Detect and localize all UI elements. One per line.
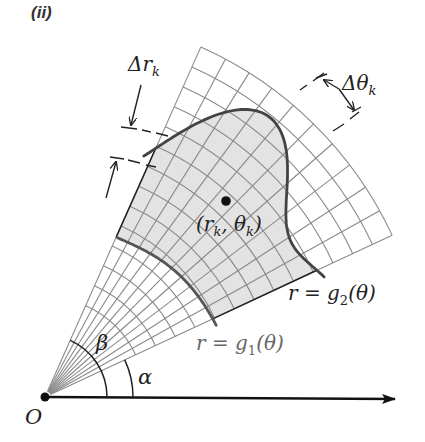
point-label-sub2: k bbox=[246, 224, 254, 239]
origin-label: O bbox=[25, 405, 42, 429]
g1-eq: = bbox=[212, 331, 229, 355]
g2-eq: = bbox=[304, 281, 321, 305]
g1-label: r = g1(θ) bbox=[196, 331, 284, 358]
point-label-mid: , θ bbox=[221, 212, 246, 236]
g2-sub: 2 bbox=[340, 293, 348, 308]
beta-label: β bbox=[96, 331, 108, 355]
g2-fn: g bbox=[327, 281, 340, 305]
g2-arg: (θ) bbox=[348, 281, 376, 305]
delta-theta-symbol: Δθ bbox=[342, 71, 368, 95]
polar-axis bbox=[45, 397, 395, 399]
g1-arg: (θ) bbox=[256, 331, 284, 355]
sample-point bbox=[221, 196, 231, 206]
delta-r-subscript: k bbox=[152, 64, 160, 79]
point-label-open: (r bbox=[196, 212, 213, 236]
origin-point bbox=[41, 393, 50, 402]
g1-lhs: r bbox=[196, 331, 206, 355]
sample-point-label: (rk, θk) bbox=[196, 212, 262, 239]
g1-sub: 1 bbox=[248, 343, 256, 358]
alpha-angle-arc bbox=[125, 360, 133, 397]
delta-theta-subscript: k bbox=[368, 83, 376, 98]
delta-theta-label: Δθk bbox=[342, 71, 376, 98]
g2-label: r = g2(θ) bbox=[288, 281, 376, 308]
g2-lhs: r bbox=[288, 281, 298, 305]
g1-fn: g bbox=[235, 331, 248, 355]
alpha-label: α bbox=[138, 365, 152, 389]
panel-label: (ii) bbox=[31, 3, 52, 23]
delta-r-symbol: Δr bbox=[128, 52, 152, 76]
delta-r-label: Δrk bbox=[128, 52, 160, 79]
point-label-close: ) bbox=[254, 212, 262, 236]
